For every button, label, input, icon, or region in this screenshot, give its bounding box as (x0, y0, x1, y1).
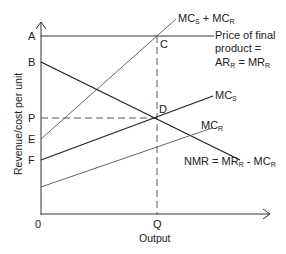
price-label-line2: product = (215, 42, 261, 54)
mcs-plus-mcr-label: MCS + MCR (178, 12, 235, 25)
label-f: F (28, 154, 35, 166)
mcr-label: MCR (201, 119, 223, 132)
nmr-curve (41, 62, 240, 160)
mcs-curve (41, 96, 213, 160)
label-p: P (28, 112, 35, 124)
label-d: D (159, 103, 167, 115)
price-label-line3: ARR = MRR (215, 56, 270, 69)
x-axis-title: Output (139, 232, 171, 244)
label-q: Q (153, 218, 162, 230)
mcs-plus-mcr-curve (41, 19, 176, 139)
mcs-label: MCS (215, 89, 237, 102)
y-axis-title: Revenue/cost per unit (12, 73, 24, 175)
economics-diagram: A B P E F 0 Q Output Revenue/cost per un… (0, 0, 286, 254)
nmr-label: NMR = MRR - MCR (184, 155, 276, 168)
price-label-line1: Price of final (215, 29, 276, 41)
label-c: C (160, 38, 168, 50)
label-a: A (28, 30, 36, 42)
label-b: B (28, 56, 35, 68)
origin-label: 0 (35, 218, 41, 230)
label-e: E (28, 133, 35, 145)
